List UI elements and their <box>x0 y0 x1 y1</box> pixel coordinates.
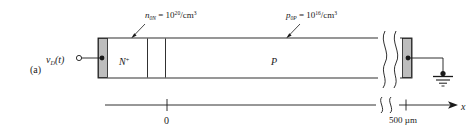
acceptor-leader-arrow <box>286 24 300 38</box>
acceptor-concentration-label: p0P = 1016/cm3 <box>286 11 337 21</box>
region-label-n-plus: N+ <box>119 57 129 67</box>
axis-break-symbol <box>376 97 399 113</box>
donor-concentration-label: n0N = 1020/cm3 <box>145 11 196 21</box>
donor-units: /cm <box>180 10 194 20</box>
axis-tick-label-500um: 500 µm <box>389 116 417 125</box>
donor-leader-arrow <box>131 24 145 38</box>
source-voltage-argument: (t) <box>55 54 64 65</box>
axis-tick-label-zero: 0 <box>164 116 169 126</box>
device-body-outline <box>98 38 412 78</box>
x-axis-line <box>105 101 458 109</box>
panel-label: (a) <box>30 65 41 75</box>
region-n-symbol: N <box>119 56 126 67</box>
source-voltage-label: vD(t) <box>46 55 64 66</box>
left-node-dot <box>100 56 105 61</box>
donor-units-exponent: 3 <box>194 10 197 16</box>
donor-equals-value: = 10 <box>156 10 175 20</box>
axis-name-label: x <box>461 102 465 112</box>
acceptor-units-exponent: 3 <box>334 10 337 16</box>
acceptor-units: /cm <box>321 10 335 20</box>
ground-symbol <box>433 71 453 86</box>
region-n-superscript: + <box>126 56 130 63</box>
open-terminal-circle <box>76 55 81 60</box>
acceptor-equals-value: = 10 <box>297 10 316 20</box>
figure-panel-a: (a) vD(t) N+ P n0N = 1020/cm3 p0P = 1016… <box>0 0 475 137</box>
region-label-p: P <box>271 57 277 67</box>
